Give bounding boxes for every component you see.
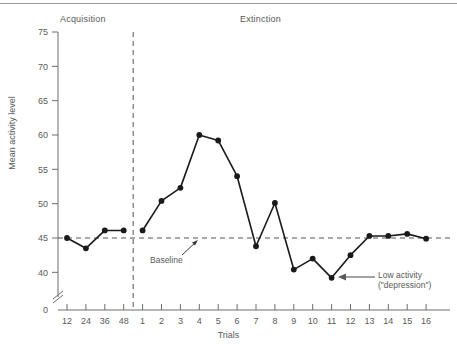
x-tick-label: 9	[291, 316, 296, 326]
x-tick-label: 1	[140, 316, 145, 326]
data-point-markers	[64, 132, 429, 281]
data-point-marker	[64, 235, 70, 241]
data-point-marker	[159, 198, 165, 204]
x-tick-label: 4	[197, 316, 202, 326]
data-point-marker	[215, 138, 221, 144]
data-point-marker	[140, 228, 146, 234]
data-point-marker	[121, 228, 127, 234]
y-tick-label: 65	[38, 96, 48, 106]
x-tick-label: 6	[235, 316, 240, 326]
y-tick-group: 40455055606570750	[38, 27, 58, 315]
data-point-marker	[310, 256, 316, 262]
data-point-marker	[404, 231, 410, 237]
data-point-marker	[234, 173, 240, 179]
axes-group	[53, 32, 450, 310]
x-tick-label: 7	[253, 316, 258, 326]
y-tick-label: 40	[38, 268, 48, 278]
low-activity-arrow-icon	[338, 274, 375, 281]
y-tick-label: 45	[38, 233, 48, 243]
y-tick-label: 60	[38, 130, 48, 140]
data-point-marker	[385, 233, 391, 239]
y-tick-label-zero: 0	[43, 305, 48, 315]
data-point-marker	[253, 243, 259, 249]
data-series-line	[143, 135, 427, 278]
x-tick-label: 2	[159, 316, 164, 326]
data-point-marker	[83, 245, 89, 251]
x-tick-label: 12	[345, 316, 355, 326]
y-tick-label: 75	[38, 27, 48, 37]
x-tick-group: 1224364812345678910111213141516	[62, 304, 431, 326]
x-tick-label: 48	[119, 316, 129, 326]
x-tick-label: 8	[272, 316, 277, 326]
data-point-marker	[348, 252, 354, 258]
x-tick-label: 11	[327, 316, 336, 326]
x-tick-label: 13	[364, 316, 374, 326]
data-point-marker	[178, 185, 184, 191]
data-series-line	[67, 230, 124, 248]
data-point-marker	[367, 233, 373, 239]
y-tick-label: 50	[38, 199, 48, 209]
x-tick-label: 14	[383, 316, 393, 326]
data-point-marker	[423, 236, 429, 242]
x-tick-label: 15	[402, 316, 412, 326]
data-point-marker	[291, 267, 297, 273]
data-point-marker	[272, 200, 278, 206]
figure-container: Acquisition Extinction Mean activity lev…	[0, 0, 457, 352]
x-tick-label: 3	[178, 316, 183, 326]
x-tick-label: 36	[100, 316, 110, 326]
x-tick-label: 10	[308, 316, 318, 326]
x-tick-label: 16	[421, 316, 431, 326]
chart-svg: 40455055606570750 1224364812345678910111…	[0, 0, 457, 352]
data-point-marker	[102, 228, 108, 234]
x-tick-label: 5	[216, 316, 221, 326]
x-tick-label: 12	[62, 316, 72, 326]
y-tick-label: 70	[38, 62, 48, 72]
x-tick-label: 24	[81, 316, 91, 326]
data-point-marker	[196, 132, 202, 138]
baseline-arrow-icon	[182, 240, 198, 255]
data-point-marker	[329, 275, 335, 281]
y-tick-label: 55	[38, 165, 48, 175]
